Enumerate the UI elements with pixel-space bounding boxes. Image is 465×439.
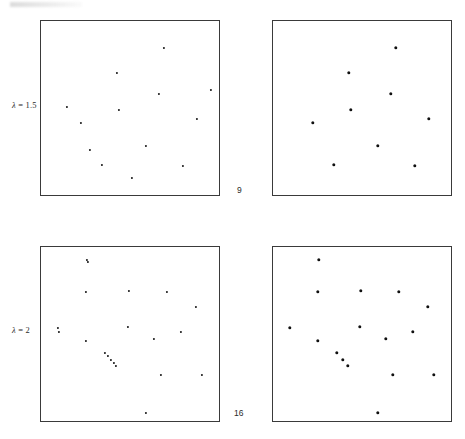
- data-point: [57, 327, 59, 329]
- data-point: [317, 258, 320, 261]
- data-point: [358, 325, 361, 328]
- data-point: [118, 109, 120, 111]
- data-point: [153, 338, 155, 340]
- data-point: [359, 289, 362, 292]
- data-point: [432, 373, 435, 376]
- data-point: [397, 290, 400, 293]
- data-point: [113, 362, 115, 364]
- data-point: [288, 326, 291, 329]
- data-point: [391, 373, 394, 376]
- data-point: [341, 358, 344, 361]
- data-point: [349, 108, 352, 111]
- data-point: [411, 330, 414, 333]
- data-point: [347, 71, 350, 74]
- data-point: [210, 89, 212, 91]
- scatter-panel-lambda1p5-right: [272, 20, 452, 196]
- data-point: [158, 93, 160, 95]
- data-point: [160, 374, 162, 376]
- data-point: [376, 411, 379, 414]
- data-point: [180, 331, 182, 333]
- data-point: [389, 92, 392, 95]
- data-point: [101, 164, 103, 166]
- data-point: [107, 355, 109, 357]
- data-point: [163, 47, 165, 49]
- scatter-panel-lambda2-right: [272, 246, 452, 422]
- count-16: 16: [234, 408, 243, 418]
- data-point: [335, 351, 338, 354]
- data-point: [127, 326, 129, 328]
- data-point: [85, 340, 87, 342]
- data-point: [66, 106, 68, 108]
- data-point: [195, 306, 197, 308]
- data-point: [201, 374, 203, 376]
- data-point: [196, 118, 198, 120]
- data-point: [182, 165, 184, 167]
- data-point: [145, 145, 147, 147]
- data-point: [87, 261, 89, 263]
- data-point: [311, 121, 314, 124]
- data-point: [58, 331, 60, 333]
- scatter-panel-lambda2-left: [40, 246, 220, 422]
- data-point: [115, 365, 117, 367]
- data-point: [426, 305, 429, 308]
- count-9: 9: [237, 185, 242, 195]
- data-point: [427, 117, 430, 120]
- data-point: [104, 352, 106, 354]
- data-point: [376, 144, 379, 147]
- data-point: [80, 122, 82, 124]
- scatter-figure: λ = 1.5λ = 2916: [0, 0, 465, 439]
- row-label-lambda-2: λ = 2: [12, 325, 30, 335]
- data-point: [316, 290, 319, 293]
- data-point: [332, 163, 335, 166]
- data-point: [394, 46, 397, 49]
- row-label-lambda-1-5: λ = 1.5: [12, 100, 37, 110]
- data-point: [85, 291, 87, 293]
- scan-artifact: [10, 2, 82, 7]
- data-point: [316, 339, 319, 342]
- data-point: [346, 364, 349, 367]
- data-point: [131, 177, 133, 179]
- data-point: [116, 72, 118, 74]
- data-point: [110, 359, 112, 361]
- data-point: [384, 337, 387, 340]
- data-point: [89, 149, 91, 151]
- scatter-panel-lambda1p5-left: [40, 20, 220, 196]
- data-point: [145, 412, 147, 414]
- data-point: [166, 291, 168, 293]
- data-point: [128, 290, 130, 292]
- data-point: [413, 164, 416, 167]
